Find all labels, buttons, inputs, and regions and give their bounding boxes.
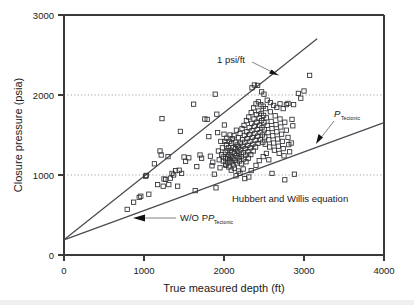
data-point-marker — [254, 163, 258, 167]
y-tick-labels: 0 1000 2000 3000 — [33, 10, 54, 261]
annotation-p-tectonic: P Tectonic — [316, 108, 360, 144]
data-point-marker — [213, 92, 217, 96]
scatter-markers — [125, 73, 312, 211]
x-tick-labels: 0 1000 2000 3000 4000 — [61, 265, 394, 276]
data-point-marker — [147, 192, 151, 196]
scatter-plot: 0 1000 2000 3000 0 1000 2000 3000 4000 T… — [0, 0, 414, 305]
annotation-without-p-tectonic: W/O P P Tectonic — [133, 212, 233, 225]
x-tick-label-1000: 1000 — [133, 265, 154, 276]
y-axis-ticks — [58, 15, 64, 255]
data-point-marker — [267, 158, 271, 162]
data-point-marker — [137, 195, 141, 199]
data-point-marker — [268, 110, 272, 114]
data-point-marker — [291, 102, 295, 106]
annotation-p-tectonic-leader — [320, 121, 334, 139]
annotation-without-p-tectonic-arrow-icon — [133, 215, 145, 222]
annotation-hubbert-willis: Hubbert and Willis equation — [232, 193, 348, 204]
y-tick-label-3000: 3000 — [33, 10, 54, 21]
data-point-marker — [292, 172, 296, 176]
data-point-marker — [125, 207, 129, 211]
data-point-marker — [302, 89, 306, 93]
data-point-marker — [214, 186, 218, 190]
annotation-hubbert-willis-label: Hubbert and Willis equation — [232, 193, 348, 204]
data-point-marker — [218, 166, 222, 170]
annotation-without-p-tectonic-subscript: Tectonic — [214, 219, 233, 225]
data-point-marker — [208, 154, 212, 158]
data-point-marker — [215, 112, 219, 116]
annotation-one-psi-per-ft: 1 psi/ft — [217, 54, 279, 76]
x-tick-label-0: 0 — [61, 265, 66, 276]
data-point-marker — [278, 117, 282, 121]
data-point-marker — [282, 154, 286, 158]
y-tick-label-0: 0 — [49, 250, 54, 261]
data-point-marker — [283, 120, 287, 124]
data-point-marker — [280, 139, 284, 143]
data-point-marker — [152, 162, 156, 166]
data-point-marker — [249, 121, 253, 125]
data-point-marker — [155, 182, 159, 186]
data-point-marker — [284, 128, 288, 132]
data-point-marker — [299, 96, 303, 100]
data-point-marker — [264, 151, 268, 155]
data-point-marker — [283, 178, 287, 182]
data-point-marker — [198, 153, 202, 157]
annotation-without-p-tectonic-label: W/O P — [180, 212, 208, 223]
data-point-marker — [195, 164, 199, 168]
annotation-one-psi-per-ft-label: 1 psi/ft — [217, 54, 245, 65]
data-point-marker — [168, 176, 172, 180]
data-point-marker — [281, 146, 285, 150]
data-point-marker — [222, 123, 226, 127]
data-point-marker — [273, 114, 277, 118]
data-point-marker — [182, 155, 186, 159]
y-axis-title: Closure pressure (psia) — [12, 78, 24, 192]
x-axis-title: True measured depth (ft) — [163, 282, 284, 294]
data-point-marker — [241, 167, 245, 171]
data-point-marker — [279, 125, 283, 129]
data-point-marker — [291, 124, 295, 128]
x-axis-ticks — [64, 255, 384, 261]
data-point-marker — [131, 200, 135, 204]
data-point-marker — [296, 91, 300, 95]
data-point-marker — [167, 182, 171, 186]
x-tick-label-4000: 4000 — [373, 265, 394, 276]
annotation-p-tectonic-label: P — [334, 108, 341, 119]
y-tick-label-1000: 1000 — [33, 170, 54, 181]
x-tick-label-3000: 3000 — [293, 265, 314, 276]
data-point-marker — [160, 116, 164, 120]
annotation-p-tectonic-subscript: Tectonic — [341, 115, 360, 121]
data-point-marker — [307, 73, 311, 77]
data-point-marker — [290, 117, 294, 121]
scan-artifact-band — [0, 300, 414, 305]
data-point-marker — [287, 150, 291, 154]
reference-line-1-psi-per-ft — [64, 39, 317, 240]
data-point-marker — [277, 151, 281, 155]
data-point-marker — [207, 134, 211, 138]
data-point-marker — [252, 117, 256, 121]
data-point-marker — [199, 156, 203, 160]
data-point-marker — [161, 184, 165, 188]
data-point-marker — [191, 102, 195, 106]
figure-container: 0 1000 2000 3000 0 1000 2000 3000 4000 T… — [0, 0, 414, 305]
data-point-marker — [212, 172, 216, 176]
data-point-marker — [175, 184, 179, 188]
data-point-marker — [215, 130, 219, 134]
annotation-p-tectonic-arrow-icon — [316, 134, 323, 144]
data-point-marker — [286, 135, 290, 139]
data-point-marker — [178, 129, 182, 133]
data-point-marker — [249, 110, 253, 114]
y-tick-label-2000: 2000 — [33, 90, 54, 101]
data-point-marker — [139, 194, 143, 198]
data-point-marker — [279, 132, 283, 136]
x-tick-label-2000: 2000 — [213, 265, 234, 276]
data-point-marker — [286, 101, 290, 105]
